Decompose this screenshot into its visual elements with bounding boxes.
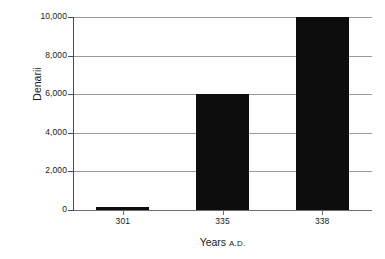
y-axis-title: Denarii (31, 49, 43, 119)
bar-335 (196, 94, 249, 210)
y-tick-label-4000: 4,000 (7, 127, 67, 137)
y-axis-tick-labels: 02,0004,0006,0008,00010,000 (3, 0, 67, 259)
x-tick-label-335: 335 (193, 216, 253, 226)
x-tick-label-338: 338 (292, 216, 352, 226)
y-tick-8000 (68, 56, 74, 57)
y-tick-2000 (68, 171, 74, 172)
y-axis-line (73, 17, 74, 210)
y-tick-4000 (68, 133, 74, 134)
plot-area (73, 17, 372, 210)
x-axis-title-main: Years (200, 236, 226, 248)
x-tick-label-301: 301 (93, 216, 153, 226)
x-axis-title: Years A.D. (73, 236, 372, 248)
bar-338 (296, 17, 349, 210)
y-tick-0 (68, 210, 74, 211)
y-tick-label-10000: 10,000 (7, 11, 67, 21)
x-tick-335 (223, 210, 224, 215)
y-tick-10000 (68, 17, 74, 18)
y-tick-6000 (68, 94, 74, 95)
x-tick-301 (123, 210, 124, 215)
y-tick-label-2000: 2,000 (7, 165, 67, 175)
x-axis-title-suffix: A.D. (229, 239, 245, 248)
x-tick-338 (322, 210, 323, 215)
bar-chart: 02,0004,0006,0008,00010,000 301335338 Ye… (0, 0, 385, 259)
y-tick-label-0: 0 (7, 204, 67, 214)
